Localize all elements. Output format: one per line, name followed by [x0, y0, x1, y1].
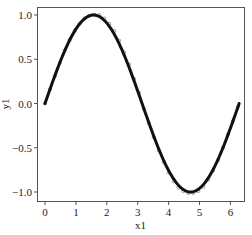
y-tick-label: −1.0	[12, 186, 32, 198]
x-tick-label: 4	[166, 206, 172, 218]
x-axis: 0123456	[42, 202, 233, 219]
x-tick-label: 2	[104, 206, 110, 218]
y-tick-label: −0.5	[12, 142, 32, 154]
y-tick-label: 0.5	[18, 53, 32, 65]
fitted-sine-curve	[45, 15, 239, 192]
y-axis-label: y1	[0, 99, 11, 110]
x-tick-label: 0	[42, 206, 48, 218]
sine-fit-chart: 0123456 1.00.50.0−0.5−1.0 x1 y1	[0, 0, 252, 235]
x-tick-label: 5	[197, 206, 203, 218]
y-axis: 1.00.50.0−0.5−1.0	[12, 9, 37, 198]
x-axis-label: x1	[135, 219, 146, 231]
y-tick-label: 0.0	[18, 98, 32, 110]
x-tick-label: 3	[135, 206, 141, 218]
x-tick-label: 6	[228, 206, 234, 218]
y-tick-label: 1.0	[18, 9, 32, 21]
x-tick-label: 1	[73, 206, 79, 218]
